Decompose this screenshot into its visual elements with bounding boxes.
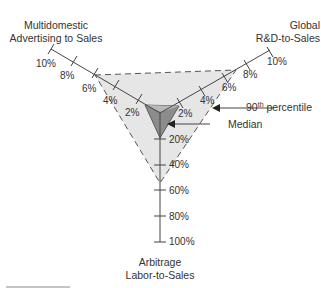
left-tick-10: 10% bbox=[36, 58, 56, 70]
right-tick-10: 10% bbox=[267, 56, 287, 68]
right-tick-8: 8% bbox=[243, 69, 257, 81]
right-tick-6: 6% bbox=[222, 82, 236, 94]
bottom-tick-60: 60% bbox=[169, 185, 189, 197]
left-tick-6: 6% bbox=[82, 83, 96, 95]
bottom-axis-title: Arbitrage Labor-to-Sales bbox=[110, 256, 210, 282]
bottom-tick-40: 40% bbox=[169, 159, 189, 171]
bottom-tick-80: 80% bbox=[169, 211, 189, 223]
legend-median-label: Median bbox=[228, 118, 262, 130]
right-tick-2: 2% bbox=[178, 108, 192, 120]
left-tick-2: 2% bbox=[125, 107, 139, 119]
bottom-tick-20: 20% bbox=[169, 134, 189, 146]
legend-p90-label: 90th percentile bbox=[246, 101, 312, 113]
left-tick-4: 4% bbox=[103, 95, 117, 107]
left-tick-8: 8% bbox=[60, 70, 74, 82]
right-tick-4: 4% bbox=[200, 95, 214, 107]
left-axis-title: Multidomestic Advertising to Sales bbox=[6, 19, 106, 45]
bottom-tick-100: 100% bbox=[169, 236, 195, 248]
right-axis-title: Global R&D-to-Sales bbox=[240, 19, 320, 45]
